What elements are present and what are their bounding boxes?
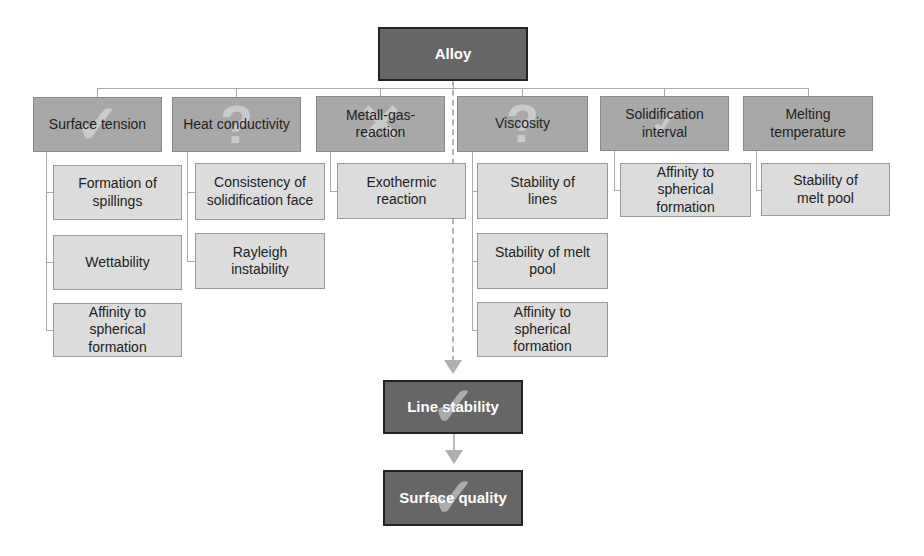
category-solidification-interval: ✓ Solidification interval — [600, 96, 729, 151]
tick — [46, 330, 53, 331]
category-label: Surface tension — [49, 116, 146, 133]
spine-heat-conductivity — [187, 152, 188, 262]
root-node-alloy: Alloy — [378, 27, 528, 81]
category-viscosity: ? Viscosity — [457, 96, 588, 152]
child-label: Affinity to spherical formation — [503, 304, 583, 355]
child-label: Affinity to spherical formation — [646, 164, 726, 215]
drop-heat-conductivity — [236, 88, 237, 97]
child-label: Stability of melt pool — [480, 244, 605, 278]
flow-dashed-line — [452, 80, 454, 362]
child-label: Wettability — [85, 254, 149, 271]
child-formation-of-spillings: Formation of spillings — [53, 165, 182, 220]
child-consistency-solidification-face: Consistency of solidification face — [195, 163, 325, 220]
spine-surface-tension — [46, 152, 47, 330]
category-label: Melting temperature — [758, 106, 858, 140]
spine-viscosity — [472, 152, 473, 330]
child-label: Stability of lines — [508, 174, 578, 208]
tick — [46, 192, 53, 193]
root-label: Alloy — [435, 45, 472, 63]
child-wettability: Wettability — [53, 235, 182, 290]
spine-melting — [756, 151, 757, 191]
category-label: Solidification interval — [615, 106, 715, 140]
child-label: Exothermic reaction — [357, 174, 447, 208]
child-affinity-spherical-formation: Affinity to spherical formation — [477, 302, 608, 357]
tick — [187, 192, 195, 193]
child-label: Stability of melt pool — [781, 172, 871, 206]
child-affinity-spherical-formation: Affinity to spherical formation — [53, 303, 182, 357]
flow-arrow-down — [444, 360, 462, 374]
child-stability-of-melt-pool: Stability of melt pool — [477, 233, 608, 289]
category-metall-gas-reaction: ✕ Metall-gas-reaction — [316, 96, 445, 152]
child-exothermic-reaction: Exothermic reaction — [337, 163, 466, 219]
child-affinity-spherical-formation: Affinity to spherical formation — [620, 163, 751, 217]
spine-solidification — [614, 151, 615, 191]
flow-arrow-down — [445, 450, 463, 464]
category-label: Heat conductivity — [183, 116, 290, 133]
drop-surface-tension — [97, 88, 98, 97]
child-stability-of-melt-pool: Stability of melt pool — [761, 163, 890, 216]
child-rayleigh-instability: Rayleigh instability — [195, 233, 325, 289]
child-label: Formation of spillings — [68, 175, 168, 209]
outcome-label: Surface quality — [399, 489, 507, 507]
category-melting-temperature: Melting temperature — [743, 96, 873, 151]
tick — [46, 262, 53, 263]
category-surface-tension: ✓ Surface tension — [33, 97, 162, 152]
child-label: Consistency of solidification face — [200, 174, 320, 208]
category-heat-conductivity: ? Heat conductivity — [172, 97, 301, 152]
category-label: Viscosity — [495, 115, 550, 132]
tick — [330, 191, 337, 192]
child-stability-of-lines: Stability of lines — [477, 163, 608, 219]
spine-metall-gas — [330, 152, 331, 192]
outcome-label: Line stability — [407, 398, 499, 416]
outcome-surface-quality: ✓ Surface quality — [383, 470, 523, 526]
category-label: Metall-gas-reaction — [336, 107, 426, 141]
outcome-line-stability: ✓ Line stability — [383, 380, 523, 434]
tick — [187, 261, 195, 262]
child-label: Affinity to spherical formation — [78, 304, 158, 355]
child-label: Rayleigh instability — [220, 244, 300, 278]
